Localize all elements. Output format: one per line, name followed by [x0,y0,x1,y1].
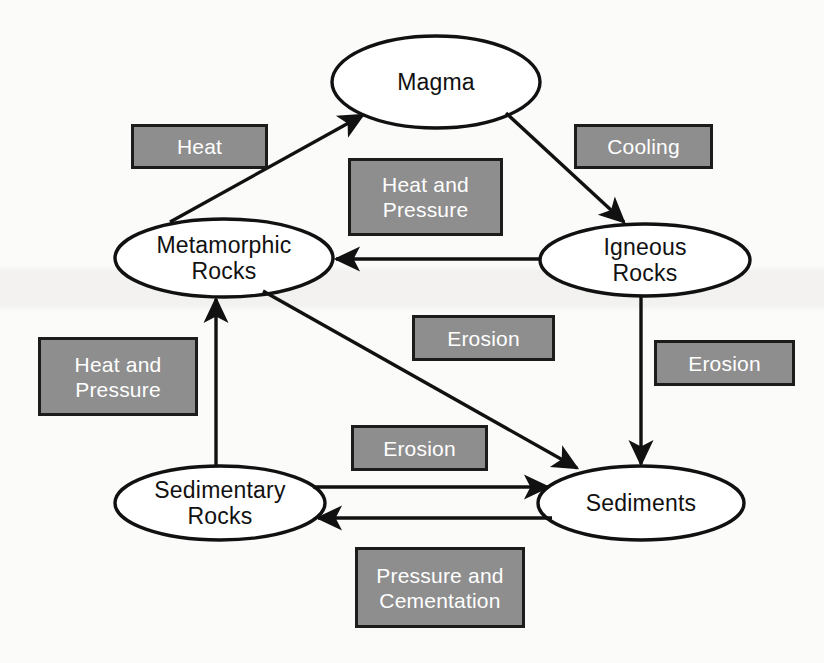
node-ellipse-sedimentary[interactable] [115,466,325,540]
process-box-cooling[interactable]: Cooling [574,124,713,169]
process-box-erosion-right[interactable]: Erosion [654,340,795,386]
process-box-heat[interactable]: Heat [131,124,268,169]
node-ellipse-igneous[interactable] [540,224,750,296]
rock-cycle-diagram: Magma Metamorphic Rocks Igneous Rocks Se… [0,0,824,663]
process-box-heat-and-pressure-left[interactable]: Heat and Pressure [38,337,198,416]
process-box-pressure-and-cementation[interactable]: Pressure and Cementation [355,547,525,628]
node-ellipse-sediments[interactable] [538,466,744,540]
process-box-erosion-center[interactable]: Erosion [412,315,555,361]
process-box-heat-and-pressure-center[interactable]: Heat and Pressure [348,158,503,236]
process-box-erosion-lower[interactable]: Erosion [351,425,488,471]
node-ellipse-metamorphic[interactable] [115,219,333,297]
